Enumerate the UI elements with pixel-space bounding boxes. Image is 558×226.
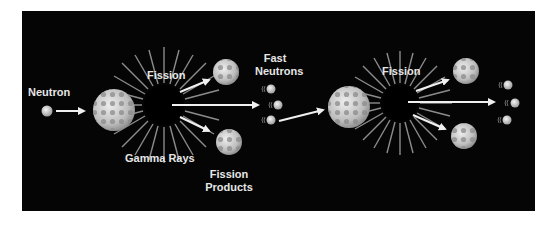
- product-arrow-icon: [180, 117, 209, 131]
- fast-neutrons-1: [262, 85, 283, 125]
- fission-products-label: Fission Products: [205, 168, 253, 194]
- fission-product-nucleus-2a: [453, 58, 479, 84]
- fission-products-label-line2: Products: [205, 181, 253, 194]
- target-nucleus-1: [93, 89, 135, 131]
- fission-product-nucleus-1b: [216, 129, 242, 155]
- gamma-rays-label: Gamma Rays: [125, 152, 195, 165]
- fast-neutrons-label-line2: Neutrons: [255, 65, 295, 78]
- fission-product-nucleus-2b: [451, 123, 477, 149]
- fission-products-label-line1: Fission: [205, 168, 253, 181]
- target-nucleus-2: [328, 86, 370, 128]
- fission-label-1: Fission: [147, 69, 186, 82]
- fission-product-nucleus-1a: [213, 59, 239, 85]
- product-arrow-icon: [413, 115, 445, 129]
- fission-label-2: Fission: [382, 65, 421, 78]
- fast-neutrons-label-line1: Fast: [255, 52, 295, 65]
- fission-diagram: [0, 0, 558, 226]
- chain-arrow-icon: [279, 110, 323, 121]
- fast-neutrons-label: Fast Neutrons: [255, 52, 295, 78]
- incoming-neutron: [42, 106, 53, 117]
- fast-neutrons-2: [498, 81, 520, 125]
- neutron-label: Neutron: [28, 86, 70, 99]
